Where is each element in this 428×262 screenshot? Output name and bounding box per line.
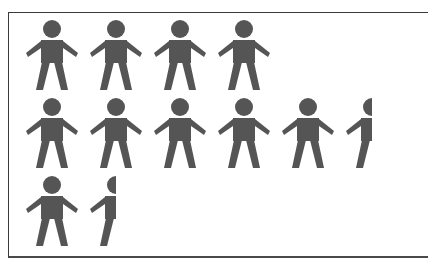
person-icon [22,176,82,248]
person-icon [86,176,116,248]
person-icon [86,98,146,170]
person-icon [86,20,146,92]
person-icon [342,98,372,170]
person-icon [22,20,82,92]
person-icon [278,98,338,170]
person-icon [22,98,82,170]
person-icon [214,98,274,170]
person-icon [150,98,210,170]
person-icon [214,20,274,92]
person-icon [150,20,210,92]
